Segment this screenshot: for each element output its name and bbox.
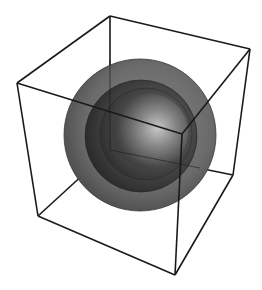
- cube-edge-left-vertical: [17, 83, 38, 216]
- cube-edge-bottom-left-front: [38, 216, 175, 275]
- sphere-in-cube-figure: [0, 0, 262, 290]
- cube-edge-top-back-right: [110, 16, 250, 49]
- nested-spheres: [64, 59, 216, 211]
